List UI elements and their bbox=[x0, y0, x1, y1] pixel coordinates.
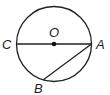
label-o: O bbox=[49, 25, 59, 40]
chord-ab bbox=[43, 44, 92, 80]
circle-diagram: O C A B bbox=[0, 0, 110, 95]
center-point bbox=[52, 42, 57, 47]
label-c: C bbox=[2, 37, 12, 52]
label-a: A bbox=[95, 37, 105, 52]
label-b: B bbox=[34, 81, 43, 95]
